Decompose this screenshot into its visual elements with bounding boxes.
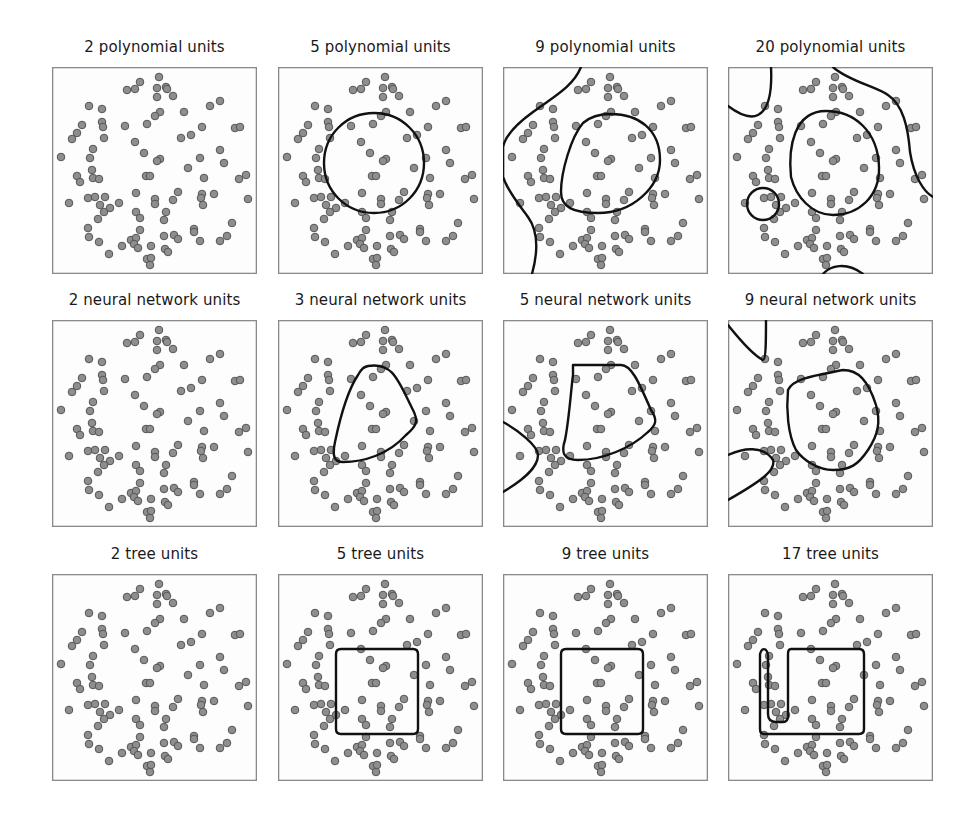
data-point	[95, 238, 103, 246]
data-point	[100, 208, 108, 216]
data-point	[918, 678, 926, 686]
data-point	[362, 585, 370, 593]
data-point	[423, 701, 431, 709]
data-point	[540, 652, 548, 660]
data-point	[508, 406, 516, 414]
data-point	[810, 751, 818, 759]
data-point	[151, 112, 159, 120]
data-point	[853, 641, 861, 649]
data-point	[635, 164, 643, 172]
data-point	[169, 449, 177, 457]
data-point	[823, 761, 831, 769]
data-point	[86, 661, 94, 669]
data-point	[410, 671, 418, 679]
data-point	[614, 338, 622, 346]
data-point	[760, 224, 768, 232]
data-point	[462, 123, 470, 131]
data-point	[216, 653, 224, 661]
data-point	[904, 726, 912, 734]
data-point	[638, 131, 646, 139]
data-point	[647, 661, 655, 669]
data-point	[836, 216, 844, 224]
data-point	[771, 682, 779, 690]
data-point	[771, 175, 779, 183]
data-point	[774, 612, 782, 620]
data-point	[442, 744, 450, 752]
data-point	[549, 105, 557, 113]
data-point	[454, 219, 462, 227]
data-point	[872, 661, 880, 669]
data-point	[134, 751, 142, 759]
data-point	[432, 102, 440, 110]
data-point	[540, 398, 548, 406]
data-point	[892, 653, 900, 661]
data-point	[86, 154, 94, 162]
data-point	[197, 447, 205, 455]
data-point	[366, 656, 374, 664]
data-point	[132, 189, 140, 197]
data-point	[831, 326, 839, 334]
data-point	[760, 701, 768, 709]
data-point	[774, 105, 782, 113]
data-point	[539, 673, 547, 681]
data-point	[136, 467, 144, 475]
data-point	[845, 449, 853, 457]
data-point	[291, 452, 299, 460]
data-point	[89, 145, 97, 153]
data-point	[291, 199, 299, 207]
data-point	[196, 237, 204, 245]
data-point	[341, 706, 349, 714]
data-point	[379, 84, 387, 92]
data-point	[216, 744, 224, 752]
data-point	[115, 706, 123, 714]
data-point	[823, 495, 831, 503]
data-point	[151, 365, 159, 373]
data-point	[228, 726, 236, 734]
data-point	[856, 361, 864, 369]
data-point	[136, 479, 144, 487]
data-point	[587, 78, 595, 86]
data-point	[360, 244, 368, 252]
data-point	[556, 503, 564, 511]
data-point	[377, 707, 385, 715]
data-point	[812, 479, 820, 487]
data-point	[583, 189, 591, 197]
scatter-plot	[728, 320, 933, 527]
data-point	[542, 193, 550, 201]
scatter-plot	[278, 574, 483, 781]
data-point	[180, 615, 188, 623]
data-point	[199, 454, 207, 462]
data-point	[585, 497, 593, 505]
data-point	[160, 216, 168, 224]
data-point	[810, 244, 818, 252]
data-point	[771, 428, 779, 436]
data-point	[436, 697, 444, 705]
data-point	[537, 407, 545, 415]
data-point	[174, 441, 182, 449]
data-point	[733, 660, 741, 668]
data-point	[615, 501, 623, 509]
data-point	[597, 261, 605, 269]
data-point	[143, 627, 151, 635]
data-point	[216, 604, 224, 612]
data-point	[597, 514, 605, 522]
panel-title: 2 polynomial units	[32, 38, 277, 56]
data-point	[875, 201, 883, 209]
data-point	[366, 149, 374, 157]
data-point	[582, 138, 590, 146]
data-point	[379, 410, 387, 418]
data-point	[65, 199, 73, 207]
data-point	[686, 175, 694, 183]
data-point	[853, 387, 861, 395]
data-point	[373, 761, 381, 769]
data-point	[386, 469, 394, 477]
data-point	[196, 661, 204, 669]
data-point	[153, 664, 161, 672]
data-point	[57, 406, 65, 414]
data-point	[764, 166, 772, 174]
data-point	[527, 178, 535, 186]
data-point	[566, 706, 574, 714]
data-point	[827, 112, 835, 120]
data-point	[604, 591, 612, 599]
data-point	[661, 190, 669, 198]
